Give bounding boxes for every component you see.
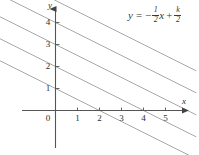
axes bbox=[22, 9, 188, 148]
fraction-one-half: 1 2 bbox=[152, 6, 159, 25]
graph-figure: y = − 1 2 x + k 2 y x 0 1 2 3 4 5 1 2 3 … bbox=[0, 0, 199, 155]
equation-annotation: y = − 1 2 x + k 2 bbox=[128, 6, 181, 25]
fraction-k-over-two: k 2 bbox=[174, 6, 181, 25]
x-tick-label-1: 1 bbox=[72, 113, 84, 123]
fraction-denominator: 2 bbox=[153, 16, 159, 24]
x-tick-label-2: 2 bbox=[94, 113, 106, 123]
line-series-2 bbox=[0, 16, 196, 115]
x-tick-label-4: 4 bbox=[138, 113, 150, 123]
equation-minus-sign: − bbox=[145, 10, 151, 21]
y-tick-label-4: 4 bbox=[42, 17, 54, 27]
equation-variable-x: x bbox=[159, 10, 164, 21]
equation-lhs: y bbox=[128, 10, 133, 21]
y-tick-label-3: 3 bbox=[42, 39, 54, 49]
x-axis-label: x bbox=[182, 96, 186, 106]
equation-plus-sign: + bbox=[166, 10, 172, 21]
fraction-numerator: k bbox=[175, 6, 181, 14]
fraction-denominator: 2 bbox=[175, 16, 181, 24]
x-tick-label-3: 3 bbox=[116, 113, 128, 123]
equation-equals: = bbox=[136, 10, 142, 21]
x-tick-label-5: 5 bbox=[160, 113, 172, 123]
y-axis-label: y bbox=[48, 0, 52, 10]
y-ticks bbox=[56, 23, 60, 89]
line-series-0 bbox=[0, 60, 196, 155]
x-tick-label-0: 0 bbox=[42, 113, 54, 123]
y-tick-label-1: 1 bbox=[42, 83, 54, 93]
fraction-numerator: 1 bbox=[153, 6, 159, 14]
y-tick-label-2: 2 bbox=[42, 61, 54, 71]
